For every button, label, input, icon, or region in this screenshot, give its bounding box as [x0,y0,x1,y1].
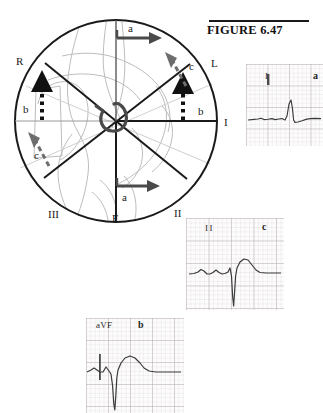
ecg-lead-label-i: I [265,71,269,81]
ecg-strip-lead-avf: aVF b [86,318,184,413]
ecg-strip-lead-ii: II c [186,218,284,310]
ecg-grid-major [246,64,323,146]
ecg-grid-major [186,218,284,310]
hexaxial-reference-diagram: a a b b [4,8,232,224]
vector-label-a-top: a [128,22,133,34]
axis-label-f: F [112,212,118,224]
calibration-tick [99,354,101,380]
vector-label-a-bottom: a [122,191,127,203]
ecg-lead-label-ii: II [205,223,214,233]
vector-label-b-right: b [198,105,204,117]
ecg-strip-lead-i: I a [246,64,323,146]
vector-arrow-b-left [31,70,53,120]
vector-label-c-right: c [189,60,194,72]
vector-arrow-a-bottom [117,178,160,192]
ecg-tag-a: a [313,70,318,81]
axis-label-ii: II [174,207,182,219]
axis-label-iii: III [48,208,59,220]
vector-arrow-b-right [172,72,194,120]
axis-label-l: L [211,57,218,69]
vector-label-b-left: b [23,103,29,115]
axis-label-r: R [16,55,24,67]
vector-label-c-left: c [34,149,39,161]
ecg-lead-label-avf: aVF [96,320,112,330]
ecg-tag-c: c [262,221,266,232]
ecg-tag-b: b [138,319,144,330]
axis-label-i: I [224,116,228,128]
figure-canvas: FIGURE 6.47 [0,0,323,413]
